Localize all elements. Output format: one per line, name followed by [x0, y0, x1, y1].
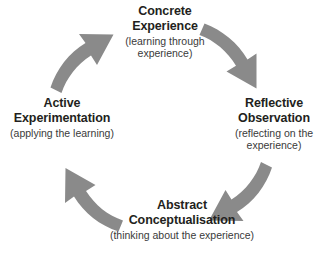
node-concrete-experience-title: Concrete Experience	[106, 4, 224, 34]
node-active-experimentation-title: Active Experimentation	[1, 96, 123, 126]
node-abstract-conceptualisation-title: Abstract Conceptualisation	[97, 198, 267, 228]
node-abstract-conceptualisation-subtitle: (thinking about the experience)	[97, 229, 267, 241]
node-concrete-experience-subtitle: (learning through experience)	[106, 35, 224, 60]
node-abstract-conceptualisation: Abstract Conceptualisation (thinking abo…	[97, 198, 267, 241]
node-concrete-experience: Concrete Experience (learning through ex…	[106, 4, 224, 59]
node-reflective-observation: Reflective Observation (reflecting on th…	[226, 96, 322, 151]
kolb-learning-cycle-diagram: Concrete Experience (learning through ex…	[0, 0, 323, 255]
node-active-experimentation: Active Experimentation (applying the lea…	[1, 96, 123, 139]
node-reflective-observation-subtitle: (reflecting on the experience)	[226, 127, 322, 152]
arrow-active-to-concrete-icon	[51, 34, 114, 93]
node-reflective-observation-title: Reflective Observation	[226, 96, 322, 126]
node-active-experimentation-subtitle: (applying the learning)	[1, 127, 123, 139]
